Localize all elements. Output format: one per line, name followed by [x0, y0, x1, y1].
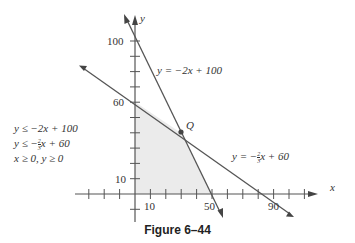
tick-label-10-y: 10: [115, 173, 126, 185]
line1-equation: y = −2x + 100: [157, 64, 222, 76]
tick-label-50: 50: [204, 200, 215, 212]
x-axis-label: x: [330, 181, 335, 193]
y-axis-label: y: [140, 12, 145, 24]
tick-label-100: 100: [107, 35, 124, 47]
constraint-1: y ≤ −2x + 100: [14, 122, 78, 134]
constraint-2: y ≤ −23x + 60: [14, 137, 70, 151]
point-q: [178, 129, 183, 134]
tick-label-10-x: 10: [144, 200, 155, 212]
line2-equation: y = −23x + 60: [232, 150, 289, 164]
constraint-3: x ≥ 0, y ≥ 0: [14, 152, 63, 164]
x-axis-arrow-icon: [308, 191, 318, 197]
y-axis-arrow-icon: [132, 15, 138, 25]
point-q-label: Q: [186, 119, 194, 131]
tick-label-90: 90: [268, 200, 279, 212]
tick-label-60: 60: [113, 96, 124, 108]
line1-arrow-start-icon: [124, 14, 130, 24]
figure-caption: Figure 6–44: [0, 223, 355, 237]
